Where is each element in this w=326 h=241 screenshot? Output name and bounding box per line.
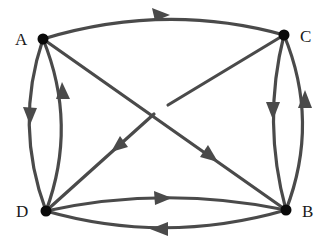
node-a [38,34,49,45]
node-label-a: A [15,30,28,49]
edge-b-to-d [46,210,286,236]
edge-a-to-d [23,39,46,211]
edge-d-to-a [43,39,70,211]
arrowhead-icon [154,191,172,205]
edge-c-to-b [266,35,286,210]
node-b [281,205,292,216]
edge-d-to-b [46,191,286,211]
edge-b-to-c [284,35,312,210]
edge-a-to-b [43,39,286,210]
node-label-c: C [300,27,311,46]
arrowhead-icon [266,102,280,120]
arrowhead-icon [23,107,37,125]
arrowhead-icon [200,145,218,162]
directed-graph: A C D B [0,0,326,241]
arrowhead-icon [150,222,168,236]
node-d [41,206,52,217]
edge-a-to-c [43,8,284,39]
node-label-b: B [302,202,313,221]
node-label-d: D [16,202,28,221]
node-c [279,30,290,41]
